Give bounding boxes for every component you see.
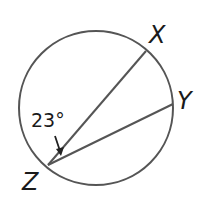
chord-zy	[48, 104, 173, 165]
point-label-y: Y	[177, 87, 194, 115]
angle-arrow-icon	[55, 136, 64, 156]
circle-diagram: X Y Z 23°	[0, 0, 204, 206]
point-label-z: Z	[21, 168, 39, 196]
angle-label: 23°	[31, 109, 65, 131]
point-label-x: X	[147, 21, 166, 49]
